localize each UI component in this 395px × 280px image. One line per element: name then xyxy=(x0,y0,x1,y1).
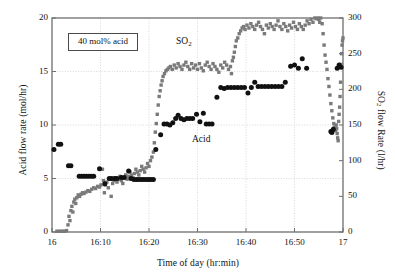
y-axis-right-tick-4: 200 xyxy=(348,83,378,93)
series-label-so2-pre: SO xyxy=(176,36,188,46)
annotation-acid-concentration: 40 mol% acid xyxy=(68,33,138,51)
x-axis-tick-3: 16:30 xyxy=(175,237,221,247)
y-axis-right-tick-2: 100 xyxy=(348,155,378,165)
x-axis-tick-6: 17 xyxy=(320,237,366,247)
y-axis-left-tick-3: 15 xyxy=(22,66,48,76)
y-axis-right-title: SO2 flow Rate (l/hr) xyxy=(376,60,387,200)
x-axis-tick-5: 16:50 xyxy=(272,237,318,247)
x-axis-tick-2: 16:20 xyxy=(126,237,172,247)
y-axis-right-tick-6: 300 xyxy=(348,12,378,22)
y-axis-right-tick-3: 150 xyxy=(348,119,378,129)
x-axis-tick-1: 16:10 xyxy=(78,237,124,247)
y-axis-left-tick-1: 5 xyxy=(22,173,48,183)
y-axis-right-tick-5: 250 xyxy=(348,48,378,58)
y-axis-right-tick-1: 50 xyxy=(348,190,378,200)
chart-figure: Acid flow rate (mol/hr) SO2 flow Rate (l… xyxy=(0,0,395,280)
y-axis-left-tick-4: 20 xyxy=(22,12,48,22)
y-axis-left-tick-0: 0 xyxy=(22,226,48,236)
y-axis-left-tick-2: 10 xyxy=(22,119,48,129)
series-label-acid: Acid xyxy=(192,134,210,144)
y-axis-right-tick-0: 0 xyxy=(348,226,378,236)
series-label-so2: SO2 xyxy=(176,36,192,47)
x-axis-tick-4: 16:40 xyxy=(223,237,269,247)
x-axis-title: Time of day (hr:min) xyxy=(52,258,344,268)
x-axis-tick-0: 16 xyxy=(29,237,75,247)
series-label-so2-sub: 2 xyxy=(188,40,191,47)
